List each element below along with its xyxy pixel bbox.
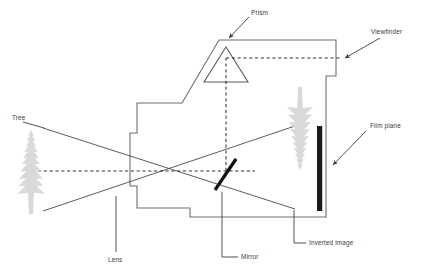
- ray-bottom: [43, 126, 295, 211]
- camera-optics-diagram: Prism Viewfinder Film plane Tree Lens Mi…: [0, 0, 421, 271]
- viewfinder-pointer: [345, 38, 380, 58]
- film-plane-bar: [317, 126, 322, 211]
- label-prism: Prism: [251, 9, 268, 16]
- film-plane-pointer: [333, 131, 366, 165]
- light-ray-bundle: [43, 126, 295, 211]
- diagram-canvas: Prism Viewfinder Film plane Tree Lens Mi…: [0, 0, 421, 271]
- mirror-leader: [222, 192, 238, 257]
- prism-pointer: [229, 17, 249, 38]
- tree-leader: [23, 122, 44, 128]
- label-lens: Lens: [108, 256, 122, 263]
- label-inverted-image: Inverted image: [309, 239, 354, 247]
- subject-tree: [17, 130, 45, 214]
- inverted-image-leader: [294, 210, 306, 243]
- label-tree: Tree: [12, 114, 26, 121]
- label-film-plane: Film plane: [370, 122, 401, 130]
- label-mirror: Mirror: [241, 253, 259, 260]
- label-viewfinder: Viewfinder: [371, 28, 403, 35]
- inverted-image-tree: [287, 87, 313, 170]
